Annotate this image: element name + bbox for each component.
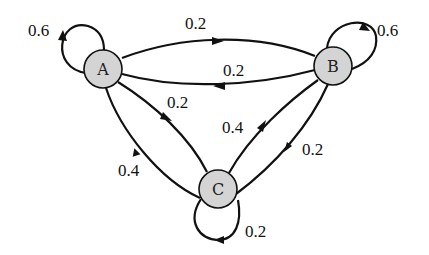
edge-label-a-c: 0.2	[167, 93, 188, 112]
node-label-c: C	[212, 180, 224, 199]
edge-a-to-b: 0.2	[122, 14, 315, 58]
edge-label-c-c: 0.2	[245, 222, 266, 241]
edge-label-a-b: 0.2	[185, 14, 206, 33]
edge-b-to-a: 0.2	[122, 61, 315, 90]
edge-label-b-c: 0.2	[302, 140, 323, 159]
node-a: A	[84, 50, 122, 88]
edge-label-b-a: 0.2	[223, 61, 244, 80]
edge-label-b-b: 0.6	[377, 21, 398, 40]
edge-c-to-c: 0.2	[195, 199, 267, 244]
arrowhead-icon	[160, 112, 172, 121]
edge-a-to-c: 0.2	[118, 82, 207, 172]
edge-label-c-b: 0.4	[222, 118, 244, 137]
arrowhead-icon	[214, 236, 224, 244]
edge-label-a-a: 0.6	[28, 21, 49, 40]
node-b: B	[314, 47, 352, 85]
edge-b-to-c: 0.2	[236, 84, 328, 194]
arrowhead-icon	[212, 37, 224, 45]
node-label-b: B	[327, 57, 339, 76]
markov-chain-diagram: 0.6 0.2 0.2 0.6 0.2 0.4 0.4 0.2	[0, 0, 429, 255]
edge-label-c-a: 0.4	[118, 161, 140, 180]
node-c: C	[199, 170, 237, 208]
node-label-a: A	[96, 60, 109, 79]
